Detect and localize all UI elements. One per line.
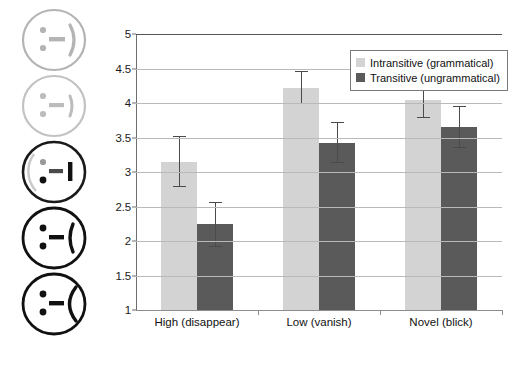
gridline [136, 310, 502, 311]
bar-intransitive [283, 88, 319, 310]
error-bar-cap-top [295, 71, 308, 72]
error-bar-cap-bottom [331, 162, 344, 163]
error-bar-stem [301, 71, 302, 104]
y-tick-label: 3.5 [116, 132, 131, 144]
error-bar [441, 106, 477, 147]
error-bar-stem [459, 106, 460, 147]
y-tick-label: 4 [125, 97, 131, 109]
y-tick-mark [132, 34, 136, 35]
y-tick-label: 2.5 [116, 201, 131, 213]
chart-page: 54.543.532.521.51 High (disappear)Low (v… [0, 0, 514, 370]
legend-label-transitive: Transitive (ungrammatical) [370, 72, 500, 84]
error-bar-stem [337, 122, 338, 163]
y-tick-label: 5 [125, 28, 131, 40]
rating-scale-faces [8, 6, 104, 364]
gridline [136, 34, 502, 35]
gridline [136, 241, 502, 242]
y-tick-mark [132, 68, 136, 69]
error-bar [283, 71, 319, 104]
error-bar-stem [215, 202, 216, 246]
error-bar [197, 202, 233, 246]
y-tick-mark [132, 241, 136, 242]
x-tick-mark [258, 310, 259, 315]
error-bar-cap-bottom [453, 147, 466, 148]
error-bar-cap-bottom [173, 186, 186, 187]
legend-label-intransitive: Intransitive (grammatical) [370, 57, 493, 69]
error-bar-cap-bottom [417, 117, 430, 118]
smiley-face-sad-glyph [18, 204, 90, 272]
error-bar-cap-top [453, 106, 466, 107]
x-tick-mark [380, 310, 381, 315]
bar-chart: 54.543.532.521.51 High (disappear)Low (v… [110, 14, 506, 358]
gridline [136, 138, 502, 139]
y-tick-mark [132, 103, 136, 104]
gridline [136, 207, 502, 208]
legend-swatch-intransitive [356, 58, 365, 67]
smiley-face-very-happy-glyph [18, 6, 90, 74]
x-category-label: High (disappear) [154, 316, 239, 328]
smiley-face-very-happy [18, 6, 90, 74]
y-tick-label: 1 [125, 304, 131, 316]
smiley-face-neutral-glyph [18, 138, 90, 206]
smiley-face-very-sad [18, 270, 90, 338]
x-category-label: Low (vanish) [286, 316, 351, 328]
y-tick-mark [132, 310, 136, 311]
y-tick-mark [132, 137, 136, 138]
smiley-face-very-sad-glyph [18, 270, 90, 338]
x-tick-mark [502, 310, 503, 315]
bar-transitive [319, 143, 355, 310]
y-tick-mark [132, 206, 136, 207]
gridline [136, 103, 502, 104]
y-tick-mark [132, 275, 136, 276]
error-bar-stem [179, 136, 180, 187]
smiley-face-neutral [18, 138, 90, 206]
legend-swatch-transitive [356, 73, 365, 82]
error-bar-cap-top [209, 202, 222, 203]
error-bar [161, 136, 197, 187]
y-tick-mark [132, 172, 136, 173]
smiley-face-sad [18, 204, 90, 272]
error-bar-cap-bottom [209, 246, 222, 247]
bar-intransitive [405, 100, 441, 310]
gridline [136, 276, 502, 277]
error-bar-cap-top [331, 122, 344, 123]
error-bar [319, 122, 355, 163]
smiley-face-happy-glyph [18, 72, 90, 140]
y-tick-label: 4.5 [116, 63, 131, 75]
legend-item-intransitive: Intransitive (grammatical) [356, 55, 500, 70]
legend-item-transitive: Transitive (ungrammatical) [356, 70, 500, 85]
x-category-label: Novel (blick) [409, 316, 472, 328]
y-tick-label: 2 [125, 235, 131, 247]
gridline [136, 172, 502, 173]
y-tick-label: 3 [125, 166, 131, 178]
chart-legend: Intransitive (grammatical) Transitive (u… [350, 50, 508, 91]
smiley-face-happy [18, 72, 90, 140]
y-tick-label: 1.5 [116, 270, 131, 282]
bar-transitive [441, 127, 477, 310]
